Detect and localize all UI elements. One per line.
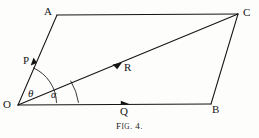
caption-tail: . 4. (130, 121, 143, 131)
angle-label-alpha: α (51, 90, 56, 100)
vertex-label-A: A (44, 6, 52, 17)
arrowhead-R-icon (113, 63, 122, 70)
angle-label-theta: θ (28, 88, 33, 98)
figure-parallelogram-of-vectors: A C O B P R Q θ α FIG. 4. (0, 0, 259, 138)
caption-smallcaps: IG (121, 123, 130, 131)
vector-label-Q: Q (120, 106, 128, 117)
segment-BC (211, 14, 238, 104)
arrowhead-Q-icon (121, 101, 131, 105)
vector-label-R: R (124, 62, 131, 73)
segment-AC (57, 14, 238, 15)
figure-caption: FIG. 4. (0, 121, 259, 131)
vertex-label-B: B (212, 104, 219, 115)
angle-arc-alpha (71, 81, 79, 103)
vertex-label-C: C (243, 7, 250, 18)
segment-OB (18, 104, 211, 105)
vector-label-P: P (23, 55, 29, 66)
vertex-label-O: O (3, 99, 11, 110)
